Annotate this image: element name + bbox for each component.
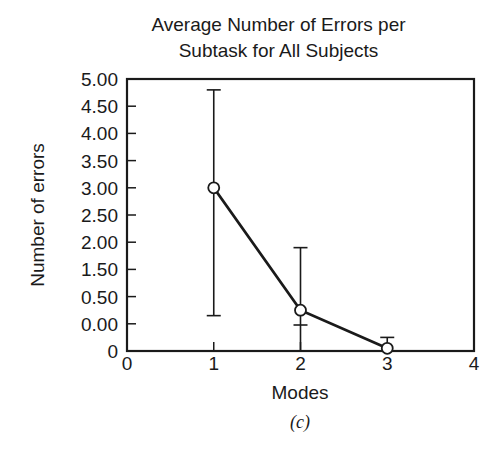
y-tick-label: 5.00: [81, 69, 118, 90]
y-tick-label: 0.00: [81, 314, 118, 335]
y-tick-label: 1.50: [81, 259, 118, 280]
y-tick-label: 0.50: [81, 287, 118, 308]
x-axis-label: Modes: [271, 382, 328, 404]
y-tick-label: 2.50: [81, 205, 118, 226]
x-tick-label: 0: [122, 353, 133, 374]
data-point-marker: [382, 343, 393, 354]
y-tick-label: 3.50: [81, 151, 118, 172]
x-tick-label: 2: [295, 353, 306, 374]
y-axis-label: Number of errors: [27, 143, 49, 287]
y-tick-label: 4.50: [81, 96, 118, 117]
y-tick-label: 0: [107, 341, 118, 362]
y-tick-label: 2.00: [81, 232, 118, 253]
x-tick-label: 4: [469, 353, 480, 374]
plot-area: 5.004.504.003.503.002.502.001.500.500.00…: [0, 0, 497, 451]
data-point-marker: [295, 305, 306, 316]
y-tick-label: 4.00: [81, 123, 118, 144]
data-point-marker: [208, 182, 219, 193]
x-tick-label: 1: [208, 353, 219, 374]
x-tick-label: 3: [382, 353, 393, 374]
figure-caption: (c): [290, 412, 310, 433]
y-tick-label: 3.00: [81, 178, 118, 199]
